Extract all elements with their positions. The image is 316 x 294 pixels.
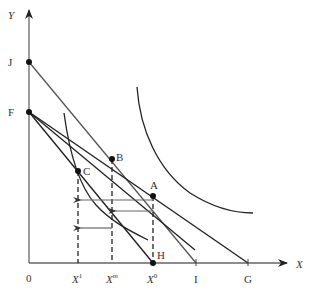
budget-line-fg (29, 112, 248, 263)
budget-line-fh (29, 112, 153, 263)
origin-label: 0 (26, 272, 32, 284)
point-h (150, 260, 156, 266)
consumer-choice-diagram: Y X 0 J F A B C H X1 Xm X0 I G (0, 0, 316, 294)
point-label-j: J (8, 56, 13, 68)
point-label-c: C (83, 165, 90, 177)
point-c (75, 168, 81, 174)
tick-label-xm: Xm (105, 272, 118, 285)
point-label-h: H (157, 249, 165, 261)
y-axis-label: Y (8, 9, 16, 21)
point-label-f: F (8, 106, 14, 118)
tick-label-i: I (194, 273, 198, 285)
point-a (150, 193, 156, 199)
point-label-a: A (150, 179, 158, 191)
compensated-budget-line (29, 112, 195, 250)
point-label-b: B (116, 151, 123, 163)
tick-label-x0: X0 (146, 272, 158, 285)
point-f (26, 109, 32, 115)
point-b (109, 156, 115, 162)
tick-label-x1: X1 (71, 272, 83, 285)
point-j (26, 59, 32, 65)
x-axis-label: X (295, 258, 304, 270)
tick-label-g: G (244, 273, 252, 285)
